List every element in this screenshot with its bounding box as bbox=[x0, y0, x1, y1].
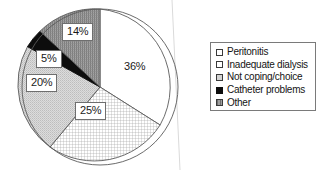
legend-item-inadequate-dialysis: Inadequate dialysis bbox=[216, 59, 315, 72]
crosshatch-swatch-icon bbox=[216, 61, 223, 68]
legend-label: Inadequate dialysis bbox=[227, 60, 308, 70]
legend-label: Peritonitis bbox=[227, 47, 268, 57]
black-swatch-icon bbox=[216, 87, 223, 94]
pie-label-inadequate-dialysis: 25% bbox=[75, 102, 106, 120]
scan-artifact-line bbox=[172, 0, 180, 170]
legend-label: Other bbox=[227, 98, 251, 108]
white-swatch-icon bbox=[216, 49, 223, 56]
dense-gray-swatch-icon bbox=[216, 99, 223, 106]
pie-label-peritonitis: 36% bbox=[124, 61, 145, 72]
pie-label-catheter-problems: 5% bbox=[36, 50, 62, 68]
light-gray-swatch-icon bbox=[216, 74, 223, 81]
legend-item-peritonitis: Peritonitis bbox=[216, 46, 315, 59]
legend-label: Not coping/choice bbox=[227, 72, 302, 82]
legend-label: Catheter problems bbox=[227, 85, 305, 95]
legend-item-catheter-problems: Catheter problems bbox=[216, 84, 315, 97]
chart-legend: Peritonitis Inadequate dialysis Not copi… bbox=[210, 42, 316, 111]
legend-item-other: Other bbox=[216, 96, 315, 109]
pie-label-not-coping-choice: 20% bbox=[26, 74, 57, 92]
pie-label-other: 14% bbox=[62, 23, 93, 41]
legend-item-not-coping-choice: Not coping/choice bbox=[216, 71, 315, 84]
pie-chart-figure: 36% 25% 20% 5% 14% Peritonitis Inadequat… bbox=[0, 0, 336, 170]
